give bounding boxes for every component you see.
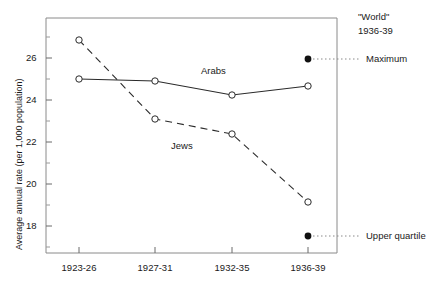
maximum-dot bbox=[305, 56, 312, 63]
x-tick-label-1936-39: 1936-39 bbox=[278, 263, 338, 273]
reference-point-upper-quartile bbox=[305, 233, 360, 240]
x-tick-label-1923-26: 1923-26 bbox=[49, 263, 109, 273]
upper-quartile-dot bbox=[305, 233, 312, 240]
x-tick-label-1932-35: 1932-35 bbox=[202, 263, 262, 273]
series-label-jews: Jews bbox=[171, 141, 193, 151]
y-tick-label-24: 24 bbox=[26, 95, 37, 105]
y-tick-label-26: 26 bbox=[26, 53, 37, 63]
series-arabs-point-1923-26 bbox=[76, 76, 82, 82]
series-arabs-line bbox=[79, 79, 308, 95]
series-jews-point-1927-31 bbox=[152, 116, 158, 122]
x-tick-label-1927-31: 1927-31 bbox=[125, 263, 185, 273]
plot-frame bbox=[46, 18, 337, 253]
corner-annotation-line1: "World" bbox=[358, 11, 389, 23]
series-arabs-point-1927-31 bbox=[152, 78, 158, 84]
reference-point-maximum bbox=[305, 56, 360, 63]
series-arabs-point-1932-35 bbox=[229, 92, 235, 98]
series-jews-line bbox=[79, 40, 308, 202]
y-tick-label-22: 22 bbox=[26, 137, 37, 147]
series-arabs bbox=[76, 76, 311, 98]
series-jews-point-1923-26 bbox=[76, 37, 82, 43]
y-tick-label-20: 20 bbox=[26, 179, 37, 189]
y-major-ticks bbox=[46, 58, 52, 226]
series-jews-point-1936-39 bbox=[305, 199, 311, 205]
y-tick-label-18: 18 bbox=[26, 221, 37, 231]
series-jews bbox=[76, 37, 311, 205]
corner-annotation-line2: 1936-39 bbox=[358, 25, 393, 37]
plot-border bbox=[46, 18, 337, 253]
series-label-arabs: Arabs bbox=[201, 66, 226, 76]
series-arabs-point-1936-39 bbox=[305, 83, 311, 89]
x-major-ticks bbox=[79, 247, 308, 253]
series-jews-point-1932-35 bbox=[229, 131, 235, 137]
reference-label-maximum: Maximum bbox=[366, 54, 407, 64]
reference-label-upper-quartile: Upper quartile bbox=[366, 231, 426, 241]
y-axis-title: Average annual rate (per 1,000 populatio… bbox=[14, 79, 24, 250]
